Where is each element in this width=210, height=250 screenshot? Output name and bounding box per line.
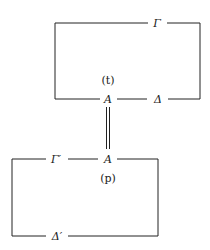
label-a-bottom: A [103, 153, 112, 166]
bottom-box-top-edge-right [68, 159, 158, 236]
top-box-top-edge-left [55, 23, 148, 99]
top-box: Γ (t) A Δ [55, 17, 200, 106]
label-t: (t) [101, 74, 114, 87]
label-delta: Δ [153, 93, 162, 106]
label-gamma-prime: Γ′ [50, 153, 62, 166]
top-box-top-edge-right [167, 23, 200, 99]
bottom-box: Γ′ A (p) Δ′ [12, 153, 158, 243]
identity-connector [107, 107, 110, 149]
bottom-box-top-edge-left [12, 159, 46, 236]
proof-net-diagram: Γ (t) A Δ Γ′ A (p) Δ′ [0, 0, 210, 250]
label-delta-prime: Δ′ [51, 230, 63, 243]
label-p: (p) [100, 172, 116, 185]
label-gamma: Γ [152, 17, 161, 30]
label-a-top: A [103, 93, 112, 106]
